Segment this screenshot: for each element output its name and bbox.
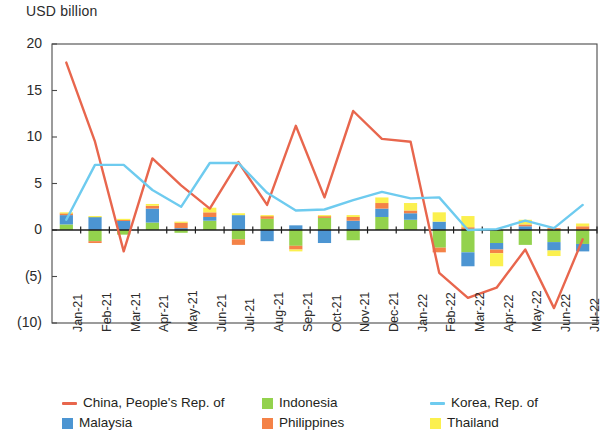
- bar-segment-philippines: [174, 223, 187, 229]
- bar-segment-thailand: [318, 215, 331, 216]
- x-tick-label: Apr-22: [502, 294, 516, 332]
- bar-segment-philippines: [375, 203, 388, 209]
- bar-segment-malaysia: [433, 222, 446, 230]
- bar-segment-thailand: [490, 253, 503, 266]
- bar-segment-thailand: [576, 223, 589, 226]
- bar-segment-thailand: [174, 222, 187, 223]
- bar-segment-philippines: [289, 246, 302, 250]
- chart-legend: China, People's Rep. ofIndonesiaKorea, R…: [62, 393, 562, 433]
- x-tick-label: Feb-21: [100, 292, 114, 332]
- bar-segment-malaysia: [490, 243, 503, 250]
- y-tick-label: 10: [2, 128, 42, 144]
- bar-segment-thailand: [261, 215, 274, 216]
- bar-segment-malaysia: [547, 242, 560, 250]
- bar-segment-indonesia: [347, 230, 360, 240]
- bar-segment-philippines: [232, 239, 245, 245]
- x-tick-label: Jul-22: [588, 298, 602, 332]
- bar-segment-malaysia: [146, 209, 159, 223]
- bar-segment-philippines: [347, 217, 360, 221]
- bar-segment-philippines: [261, 216, 274, 219]
- y-tick-label: (10): [2, 314, 42, 330]
- bar-segment-thailand: [117, 219, 130, 220]
- bar-segment-indonesia: [88, 230, 101, 241]
- legend-label: China, People's Rep. of: [83, 396, 224, 410]
- y-tick-label: 20: [2, 35, 42, 51]
- bar-segment-philippines: [203, 212, 216, 217]
- legend-box-swatch: [262, 418, 273, 429]
- chart-figure: USD billion 20151050(5)(10) Jan-21Feb-21…: [0, 0, 608, 433]
- bar-segment-indonesia: [203, 221, 216, 230]
- bar-segment-malaysia: [375, 209, 388, 217]
- legend-philippines[interactable]: Philippines: [262, 413, 430, 433]
- bar-segment-philippines: [60, 213, 73, 215]
- legend-indonesia[interactable]: Indonesia: [262, 393, 430, 413]
- y-tick-label: 5: [2, 175, 42, 191]
- x-tick-label: Sep-21: [301, 292, 315, 332]
- bar-segment-malaysia: [203, 217, 216, 221]
- legend-thailand[interactable]: Thailand: [430, 413, 562, 433]
- bar-segment-malaysia: [461, 252, 474, 266]
- legend-line-swatch: [430, 402, 445, 405]
- x-tick-label: Aug-21: [272, 292, 286, 332]
- legend-korea[interactable]: Korea, Rep. of: [430, 393, 562, 413]
- bar-segment-indonesia: [547, 230, 560, 242]
- bar-segment-indonesia: [375, 217, 388, 230]
- y-tick-label: 15: [2, 82, 42, 98]
- bar-segment-philippines: [146, 206, 159, 209]
- legend-label: Indonesia: [279, 396, 338, 410]
- bar-segment-indonesia: [404, 220, 417, 230]
- bar-segment-malaysia: [347, 221, 360, 230]
- bar-segment-indonesia: [461, 230, 474, 252]
- bar-segment-indonesia: [490, 230, 503, 243]
- legend-box-swatch: [62, 418, 73, 429]
- plot-frame: [52, 44, 597, 323]
- bar-segment-malaysia: [261, 230, 274, 241]
- x-tick-label: Feb-22: [444, 292, 458, 332]
- bar-segment-indonesia: [232, 230, 245, 239]
- bar-segment-philippines: [519, 224, 532, 226]
- legend-label: Thailand: [447, 416, 499, 430]
- legend-box-swatch: [430, 418, 441, 429]
- x-tick-label: May-21: [186, 290, 200, 332]
- x-tick-label: May-22: [530, 290, 544, 332]
- bar-segment-philippines: [404, 210, 417, 213]
- bar-segment-malaysia: [404, 213, 417, 220]
- x-tick-label: Jan-22: [416, 294, 430, 332]
- x-tick-label: Dec-21: [387, 292, 401, 332]
- bar-segment-thailand: [404, 203, 417, 210]
- bar-segment-thailand: [232, 213, 245, 215]
- bar-segment-thailand: [146, 204, 159, 206]
- bar-segment-philippines: [318, 216, 331, 218]
- bar-segment-thailand: [433, 212, 446, 221]
- bar-segment-philippines: [490, 250, 503, 254]
- legend-line-swatch: [62, 402, 77, 405]
- legend-malaysia[interactable]: Malaysia: [62, 413, 262, 433]
- bar-segment-malaysia: [117, 221, 130, 230]
- bar-segment-thailand: [547, 250, 560, 256]
- x-tick-label: Jun-21: [215, 294, 229, 332]
- legend-label: Philippines: [279, 416, 344, 430]
- bar-segment-indonesia: [146, 223, 159, 230]
- legend-china[interactable]: China, People's Rep. of: [62, 393, 262, 413]
- x-tick-label: Jul-21: [243, 298, 257, 332]
- bar-segment-philippines: [88, 241, 101, 243]
- bar-segment-indonesia: [519, 230, 532, 245]
- bar-segment-thailand: [88, 216, 101, 217]
- line-series-china--people-s-rep--of: [66, 63, 582, 309]
- x-tick-label: Nov-21: [358, 292, 372, 332]
- bar-segment-malaysia: [318, 230, 331, 243]
- x-tick-label: Apr-21: [157, 294, 171, 332]
- bar-segment-indonesia: [60, 224, 73, 230]
- legend-label: Korea, Rep. of: [451, 396, 538, 410]
- legend-box-swatch: [262, 398, 273, 409]
- bar-segment-thailand: [289, 250, 302, 252]
- bar-segment-thailand: [347, 215, 360, 217]
- legend-label: Malaysia: [79, 416, 132, 430]
- y-tick-label: 0: [2, 221, 42, 237]
- x-tick-label: Jan-21: [71, 294, 85, 332]
- x-tick-label: Mar-22: [473, 292, 487, 332]
- bar-segment-indonesia: [318, 218, 331, 230]
- bar-segment-thailand: [375, 197, 388, 203]
- bar-segment-malaysia: [88, 217, 101, 230]
- bar-segment-indonesia: [261, 219, 274, 230]
